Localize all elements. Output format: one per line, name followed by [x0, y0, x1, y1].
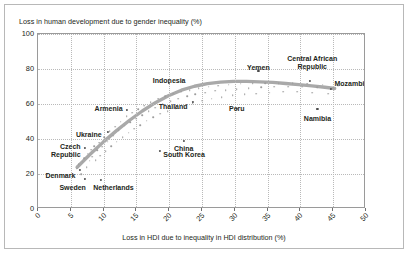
scatter-point [302, 86, 304, 88]
scatter-point-labeled[interactable] [125, 109, 127, 111]
country-label: Netherlands [93, 184, 133, 192]
x-tick-label: 45 [325, 211, 337, 223]
country-label: Peru [229, 105, 245, 113]
country-label: Thailand [159, 103, 188, 111]
y-tick-label: 0 [8, 204, 34, 213]
scatter-point [198, 87, 200, 89]
scatter-point [236, 88, 238, 90]
scatter-point [115, 126, 117, 128]
scatter-point [150, 101, 152, 103]
scatter-point [83, 157, 85, 159]
x-tick-mark [365, 208, 366, 211]
scatter-point-labeled[interactable] [100, 179, 102, 181]
scatter-point [118, 129, 120, 131]
scatter-point-labeled[interactable] [183, 140, 185, 142]
scatter-point [269, 92, 271, 94]
x-axis-ticks: 05101520253035404550 [37, 208, 365, 234]
scatter-point [292, 82, 294, 84]
scatter-point [76, 168, 78, 170]
gridline-horizontal [38, 34, 364, 35]
scatter-point [89, 160, 91, 162]
scatter-point [170, 101, 172, 103]
scatter-point [94, 145, 96, 147]
scatter-point-labeled[interactable] [159, 150, 161, 152]
country-label: Armenia [95, 105, 123, 113]
x-tick-mark [234, 208, 235, 211]
x-tick-label: 30 [227, 211, 239, 223]
x-tick-label: 25 [194, 211, 206, 223]
y-tick-label: 80 [8, 64, 34, 73]
gridline-vertical [235, 34, 236, 207]
scatter-point [142, 115, 144, 117]
scatter-point [148, 110, 150, 112]
scatter-point [90, 149, 92, 151]
scatter-point [109, 130, 111, 132]
scatter-point-labeled[interactable] [316, 108, 318, 110]
scatter-point [273, 86, 275, 88]
scatter-point [178, 98, 180, 100]
y-tick-label: 40 [8, 134, 34, 143]
scatter-point [260, 87, 262, 89]
scatter-point [311, 92, 313, 94]
scatter-point [153, 116, 155, 118]
scatter-point [264, 82, 266, 84]
scatter-point [146, 120, 148, 122]
scatter-point [287, 86, 289, 88]
x-tick-label: 10 [96, 211, 108, 223]
scatter-point [98, 142, 100, 144]
scatter-point [317, 87, 319, 89]
scatter-point [244, 94, 246, 96]
scatter-point [140, 124, 142, 126]
scatter-point [218, 85, 220, 87]
scatter-point [204, 92, 206, 94]
scatter-point-labeled[interactable] [84, 178, 86, 180]
scatter-point [95, 159, 97, 161]
country-label: Central AfricanRepublic [287, 55, 337, 72]
country-label: Ukraine [76, 131, 102, 139]
scatter-point [155, 107, 157, 109]
scatter-point [138, 108, 140, 110]
scatter-point [143, 105, 145, 107]
chart-figure: Loss in human development due to gender … [4, 4, 404, 249]
country-label: China [174, 145, 193, 153]
scatter-point [159, 113, 161, 115]
scatter-point [122, 136, 124, 138]
scatter-point [136, 118, 138, 120]
scatter-point [189, 89, 191, 91]
scatter-point [228, 84, 230, 86]
scatter-point [252, 82, 254, 84]
scatter-point-labeled[interactable] [79, 169, 81, 171]
gridline-vertical [169, 34, 170, 207]
x-tick-label: 5 [66, 211, 75, 220]
country-label: CzechRepublic [51, 143, 81, 160]
scatter-point [186, 95, 188, 97]
scatter-point [232, 94, 234, 96]
scatter-point [87, 153, 89, 155]
gridline-vertical [71, 34, 72, 207]
y-axis-ticks: 020406080100 [5, 33, 34, 208]
y-tick-label: 100 [8, 29, 34, 38]
x-tick-label: 20 [161, 211, 173, 223]
scatter-point [120, 121, 122, 123]
x-axis-title: Loss in HDI due to inequality in HDI dis… [5, 233, 403, 242]
scatter-point-labeled[interactable] [106, 131, 108, 133]
scatter-point [278, 82, 280, 84]
scatter-point [157, 98, 159, 100]
scatter-point-labeled[interactable] [308, 80, 310, 82]
country-label: Indonesia [153, 77, 186, 85]
gridline-horizontal [38, 174, 364, 175]
scatter-point-labeled[interactable] [84, 147, 86, 149]
scatter-point [256, 93, 258, 95]
scatter-point [86, 166, 88, 168]
scatter-point [96, 150, 98, 152]
scatter-point-labeled[interactable] [329, 88, 331, 90]
x-tick-mark [70, 208, 71, 211]
y-tick-label: 60 [8, 99, 34, 108]
scatter-point [211, 98, 213, 100]
scatter-point [92, 156, 94, 158]
x-tick-mark [332, 208, 333, 211]
scatter-point [132, 112, 134, 114]
country-label: Namibia [304, 115, 331, 123]
x-tick-mark [267, 208, 268, 211]
country-label: Denmark [45, 172, 75, 180]
